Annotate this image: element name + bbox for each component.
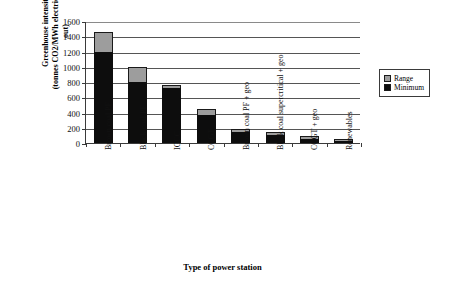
- x-axis-tick: [361, 143, 362, 147]
- legend-item[interactable]: Minimum: [384, 84, 424, 92]
- x-axis-tick: [155, 143, 156, 147]
- x-axis-category-label: Brown coal PF: [105, 102, 113, 150]
- x-axis-category-label: Black coal supercritical + geo: [277, 54, 285, 150]
- x-axis-tick: [120, 143, 121, 147]
- x-axis-tick: [224, 143, 225, 147]
- bar-segment-range[interactable]: [128, 67, 147, 82]
- x-axis-tick: [292, 143, 293, 147]
- chart-legend: RangeMinimum: [379, 69, 430, 97]
- x-axis-tick: [258, 143, 259, 147]
- legend-item-label: Minimum: [394, 84, 424, 92]
- x-axis-tick: [189, 143, 190, 147]
- y-axis-tick-label: 800: [67, 79, 80, 88]
- x-axis-tick: [86, 143, 87, 147]
- y-axis-tick-label: 0: [76, 140, 80, 149]
- bar-segment-range[interactable]: [94, 32, 113, 51]
- y-axis-tick-label: 1400: [63, 33, 80, 42]
- x-axis-title: Type of power station: [85, 262, 360, 272]
- y-axis-tick-label: 1600: [63, 18, 80, 27]
- legend-swatch-icon: [384, 84, 391, 91]
- x-axis-category-label: Brown coal PF + geo: [243, 82, 251, 150]
- x-axis-category-label: Black coal PF: [140, 105, 148, 150]
- x-axis-category-label: IGCC: [174, 131, 182, 150]
- y-axis-tick-label: 1200: [63, 48, 80, 57]
- y-axis-title-line1: Greenhouse intensity: [41, 0, 50, 67]
- y-axis-tick-label: 400: [67, 109, 80, 118]
- x-axis-category-label: CCGT: [208, 129, 216, 150]
- y-axis-tick-label: 1000: [63, 64, 80, 73]
- x-axis-category-label: CCGT + geo: [311, 109, 319, 150]
- greenhouse-intensity-bar-chart: Greenhouse intensity (tonnes CO2/MWh ele…: [0, 0, 451, 281]
- x-axis-tick: [327, 143, 328, 147]
- y-axis-tick-label: 200: [67, 125, 80, 134]
- legend-swatch-icon: [384, 75, 391, 82]
- x-axis-category-label: Renewables: [346, 111, 354, 150]
- legend-item-label: Range: [394, 75, 413, 83]
- legend-item[interactable]: Range: [384, 75, 424, 83]
- y-axis-tick-label: 600: [67, 94, 80, 103]
